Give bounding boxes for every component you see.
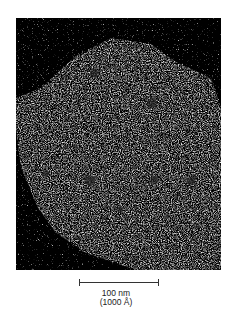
scale-bar-line	[79, 282, 159, 283]
scale-bar-right-tick	[158, 279, 159, 286]
scale-sublabel: (1000 Å)	[0, 298, 232, 307]
scale-bar-left-tick	[79, 279, 80, 286]
scale-bar	[79, 279, 159, 287]
micrograph-image	[16, 18, 221, 270]
